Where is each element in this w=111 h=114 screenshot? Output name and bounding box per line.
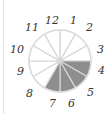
hour-label-8: 8: [26, 87, 33, 100]
hour-label-6: 6: [68, 97, 75, 110]
hour-label-9: 9: [17, 65, 24, 78]
hour-label-1: 1: [70, 14, 77, 27]
sectors-group: [29, 30, 91, 92]
hour-label-7: 7: [49, 97, 56, 110]
hour-label-2: 2: [85, 21, 93, 34]
hour-label-11: 11: [25, 21, 39, 34]
hour-label-4: 4: [97, 64, 105, 77]
hour-label-10: 10: [10, 43, 24, 56]
hour-label-5: 5: [87, 86, 94, 99]
clock-circle-diagram: 12 1 2 3 4 5 6 7 8 9 10 11: [0, 0, 111, 114]
hour-label-3: 3: [97, 43, 104, 56]
hour-label-12: 12: [45, 14, 59, 27]
